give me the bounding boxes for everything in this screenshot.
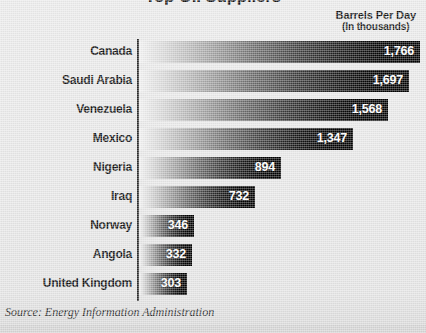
bar-row: United Kingdom303 (0, 270, 426, 299)
category-label: Saudi Arabia (2, 73, 132, 87)
bar-value-label: 346 (168, 218, 188, 232)
bar: 1,347 (139, 128, 353, 150)
units-caption-line2: (In thousands) (336, 21, 416, 33)
bar-value-label: 894 (255, 160, 275, 174)
bar: 1,697 (139, 70, 409, 92)
bar-value-label: 1,347 (317, 131, 347, 145)
bar-row: Angola332 (0, 241, 426, 270)
bar: 1,568 (139, 99, 388, 121)
category-label: Nigeria (2, 160, 132, 174)
bar: 732 (139, 186, 255, 208)
bar-value-label: 1,568 (352, 102, 382, 116)
plot-area: Canada1,766Saudi Arabia1,697Venezuela1,5… (0, 38, 426, 302)
bar-row: Venezuela1,568 (0, 96, 426, 125)
bottom-band (0, 325, 426, 333)
bar-value-label: 1,766 (384, 44, 414, 58)
bar-row: Mexico1,347 (0, 125, 426, 154)
category-label: Angola (2, 247, 132, 261)
bar-row: Nigeria894 (0, 154, 426, 183)
category-label: Iraq (2, 189, 132, 203)
bar-value-label: 1,697 (373, 73, 403, 87)
bar: 1,766 (139, 41, 420, 63)
bar-row: Iraq732 (0, 183, 426, 212)
units-caption-line1: Barrels Per Day (336, 9, 416, 21)
category-label: United Kingdom (2, 276, 132, 290)
category-label: Mexico (2, 131, 132, 145)
bar-value-label: 732 (229, 189, 249, 203)
bar: 894 (139, 157, 281, 179)
chart-container: Top Oil Suppliers Barrels Per Day (In th… (0, 0, 426, 333)
bar-row: Norway346 (0, 212, 426, 241)
source-note: Source: Energy Information Administratio… (5, 305, 214, 320)
chart-title: Top Oil Suppliers (0, 0, 426, 7)
category-label: Norway (2, 218, 132, 232)
bar-row: Saudi Arabia1,697 (0, 67, 426, 96)
bar: 303 (139, 273, 187, 295)
bar-value-label: 303 (161, 276, 181, 290)
category-label: Canada (2, 44, 132, 58)
bar: 346 (139, 215, 194, 237)
units-caption: Barrels Per Day (In thousands) (336, 9, 416, 33)
bar: 332 (139, 244, 192, 266)
bar-value-label: 332 (166, 247, 186, 261)
bar-row: Canada1,766 (0, 38, 426, 67)
category-label: Venezuela (2, 102, 132, 116)
